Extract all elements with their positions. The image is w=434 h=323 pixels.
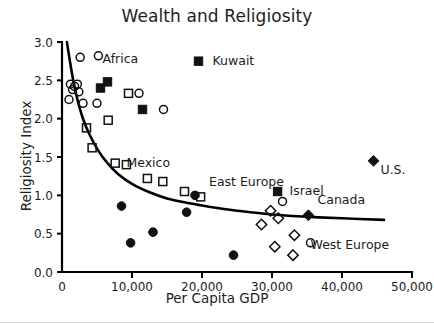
x-tick-label: 50,000 bbox=[391, 280, 433, 294]
data-point-open-square bbox=[159, 178, 167, 186]
annotation-label: Canada bbox=[318, 192, 366, 207]
data-point-filled-circle bbox=[182, 208, 191, 217]
data-point-open-square bbox=[181, 188, 189, 196]
data-point-filled-circle bbox=[191, 191, 200, 200]
y-tick-label: 0.5 bbox=[34, 227, 53, 241]
y-tick-label: 1.5 bbox=[34, 151, 53, 165]
data-point-filled-circle bbox=[117, 202, 126, 211]
annotation-label: East Europe bbox=[209, 174, 284, 189]
annotation-label: Kuwait bbox=[213, 53, 255, 68]
data-point-open-square bbox=[125, 89, 133, 97]
data-point-filled-diamond bbox=[303, 210, 314, 221]
series-open-circle bbox=[65, 52, 315, 247]
data-point-filled-square bbox=[273, 187, 281, 195]
data-point-open-diamond bbox=[256, 219, 266, 229]
annotations-group: AfricaKuwaitMexicoEast EuropeIsraelCanad… bbox=[103, 51, 406, 252]
data-point-open-circle bbox=[93, 99, 101, 107]
x-tick-label: 20,000 bbox=[181, 280, 223, 294]
data-point-open-circle bbox=[94, 52, 102, 60]
x-tick-label: 10,000 bbox=[111, 280, 153, 294]
data-point-open-circle bbox=[135, 89, 143, 97]
x-tick-label: 30,000 bbox=[251, 280, 293, 294]
chart-figure: Wealth and Religiosity Religiosity Index… bbox=[0, 0, 434, 323]
plot-area: 010,00020,00030,00040,00050,000 0.00.51.… bbox=[0, 0, 434, 323]
data-point-filled-diamond bbox=[368, 155, 379, 166]
data-point-filled-square bbox=[194, 57, 202, 65]
data-point-open-square bbox=[104, 116, 112, 124]
annotation-label: U.S. bbox=[381, 162, 406, 177]
data-point-open-circle bbox=[160, 105, 168, 113]
y-tick-label: 0.0 bbox=[34, 266, 53, 280]
data-point-open-diamond bbox=[288, 250, 298, 260]
data-point-open-square bbox=[111, 159, 119, 167]
data-point-open-square bbox=[143, 174, 151, 182]
y-tick-label: 2.0 bbox=[34, 112, 53, 126]
data-point-open-circle bbox=[279, 197, 287, 205]
annotation-label: Mexico bbox=[126, 155, 170, 170]
data-points-group bbox=[65, 52, 379, 261]
annotation-label: Africa bbox=[103, 51, 139, 66]
data-point-open-diamond bbox=[289, 230, 299, 240]
y-tick-label: 2.5 bbox=[34, 74, 53, 88]
x-tick-labels: 010,00020,00030,00040,00050,000 bbox=[58, 280, 433, 294]
y-tick-labels: 0.00.51.01.52.02.53.0 bbox=[34, 36, 53, 280]
data-point-filled-circle bbox=[149, 228, 158, 237]
x-tick-label: 0 bbox=[58, 280, 66, 294]
data-point-open-circle bbox=[79, 99, 87, 107]
data-point-filled-circle bbox=[229, 251, 238, 260]
annotation-label: West Europe bbox=[311, 237, 390, 252]
data-point-open-diamond bbox=[270, 242, 280, 252]
data-point-filled-square bbox=[103, 78, 111, 86]
data-point-filled-square bbox=[138, 105, 146, 113]
data-point-open-circle bbox=[76, 53, 84, 61]
data-point-filled-circle bbox=[126, 239, 135, 248]
y-tick-label: 3.0 bbox=[34, 36, 53, 50]
x-tick-label: 40,000 bbox=[321, 280, 363, 294]
data-point-open-circle bbox=[65, 96, 73, 104]
y-tick-label: 1.0 bbox=[34, 189, 53, 203]
